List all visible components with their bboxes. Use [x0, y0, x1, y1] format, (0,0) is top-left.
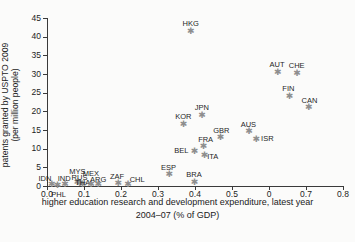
data-point-marker: ✱: [191, 148, 198, 155]
data-point-label: CHL: [130, 176, 145, 184]
data-point-label: JPN: [195, 104, 209, 112]
data-point-label: BRA: [186, 171, 201, 179]
data-point-marker: ✱: [187, 28, 194, 35]
y-tick-label: 40: [19, 32, 41, 41]
plot-area: 051015202530354045 0.00.10.20.30.40.500.…: [47, 18, 343, 186]
data-point-label: FIN: [282, 85, 294, 93]
data-point-label: GBR: [213, 127, 229, 135]
y-tick-mark: [43, 130, 47, 131]
y-tick-label: 30: [19, 70, 41, 79]
x-axis-title-line1: higher education research and developmen…: [0, 196, 355, 209]
y-tick-mark: [43, 149, 47, 150]
data-point-label: HKG: [183, 20, 199, 28]
y-tick-mark: [43, 93, 47, 94]
data-point-label: KOR: [175, 113, 191, 121]
data-point-label: ESP: [161, 164, 176, 172]
x-axis-title: higher education research and developmen…: [0, 196, 355, 221]
data-point-label: IND: [58, 175, 71, 183]
data-point-marker: ✱: [245, 128, 252, 135]
data-point-marker: ✱: [293, 70, 300, 77]
data-point-marker: ✱: [274, 69, 281, 76]
data-point-label: CAN: [302, 97, 318, 105]
data-point-marker: ✱: [180, 121, 187, 128]
y-tick-mark: [43, 74, 47, 75]
y-tick-label: 20: [19, 107, 41, 116]
data-point-label: BEL: [174, 147, 188, 155]
y-tick-label: 35: [19, 51, 41, 60]
data-point-marker: ✱: [198, 112, 205, 119]
data-point-marker: ✱: [191, 179, 198, 186]
y-tick-label: 15: [19, 126, 41, 135]
data-point-marker: ✱: [305, 104, 312, 111]
data-point-label: FRA: [198, 136, 213, 144]
data-point-marker: ✱: [200, 143, 207, 150]
data-point-label: ARG: [90, 176, 106, 184]
data-point-marker: ✱: [54, 182, 61, 189]
data-point-label: AUS: [241, 121, 256, 129]
y-tick-label: 45: [19, 14, 41, 23]
data-point-marker: ✱: [286, 93, 293, 100]
scatter-plot-figure: 051015202530354045 0.00.10.20.30.40.500.…: [0, 0, 355, 242]
data-point-label: IDN: [38, 175, 51, 183]
data-point-marker: ✱: [166, 171, 173, 178]
data-point-label: ITA: [207, 153, 218, 161]
y-tick-mark: [43, 55, 47, 56]
y-tick-mark: [43, 18, 47, 19]
data-point-marker: ✱: [253, 136, 260, 143]
y-tick-mark: [43, 111, 47, 112]
data-point-label: AUT: [270, 61, 285, 69]
y-tick-label: 10: [19, 144, 41, 153]
y-tick-mark: [43, 167, 47, 168]
y-axis-title-line2: (per million people): [10, 20, 20, 190]
data-point-label: ISR: [261, 135, 274, 143]
data-point-label: CHE: [289, 62, 305, 70]
x-axis-title-line2: 2004–07 (% of GDP): [0, 209, 355, 222]
y-tick-label: 25: [19, 88, 41, 97]
data-point-label: ZAF: [110, 173, 124, 181]
y-axis-title-line1: patents granted by USPTO 2009: [0, 20, 10, 190]
y-tick-label: 5: [19, 163, 41, 172]
y-tick-mark: [43, 37, 47, 38]
y-axis-line: [47, 18, 48, 186]
